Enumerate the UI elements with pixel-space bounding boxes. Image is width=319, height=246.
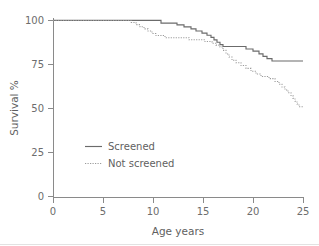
y-tick-label-75: 75	[31, 59, 44, 70]
y-tick-label-50: 50	[31, 103, 44, 114]
chart-canvas: 100 75 50 25 0 0 5 10 15 20 25 Age years…	[0, 0, 319, 246]
chart-legend: Screened Not screened	[85, 141, 174, 169]
x-tick-label-25: 25	[297, 206, 310, 217]
x-axis-ticks	[53, 197, 303, 203]
y-tick-label-100: 100	[25, 15, 44, 26]
x-tick-label-0: 0	[50, 206, 56, 217]
legend-label-screened: Screened	[108, 141, 155, 152]
x-tick-label-10: 10	[147, 206, 160, 217]
legend-label-not-screened: Not screened	[108, 158, 174, 169]
y-axis-title: Survival %	[8, 80, 20, 136]
y-axis-ticks	[48, 20, 53, 196]
series-line-screened	[53, 20, 303, 61]
series-line-not-screened	[53, 20, 303, 106]
y-tick-label-0: 0	[38, 191, 44, 202]
survival-chart-figure: 100 75 50 25 0 0 5 10 15 20 25 Age years…	[0, 0, 319, 246]
x-tick-label-15: 15	[197, 206, 210, 217]
y-tick-label-25: 25	[31, 147, 44, 158]
x-tick-label-20: 20	[247, 206, 260, 217]
x-axis-title: Age years	[152, 225, 205, 237]
x-tick-label-5: 5	[100, 206, 106, 217]
